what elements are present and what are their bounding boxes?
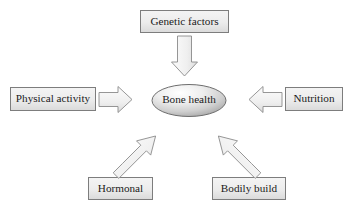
node-hormonal[interactable]: Hormonal [89,178,153,200]
diagram-canvas: Genetic factors Physical activity Nutrit… [0,0,350,210]
node-genetic-factors[interactable]: Genetic factors [141,11,229,33]
nutrition-label: Nutrition [293,92,334,104]
genetic-factors-label: Genetic factors [150,15,218,27]
bodily-build-label: Bodily build [221,182,278,194]
arrow-nutrition-to-bone-health [249,87,282,113]
arrow-physical-activity-to-bone-health [99,87,132,113]
node-physical-activity[interactable]: Physical activity [11,88,96,111]
physical-activity-label: Physical activity [16,92,91,104]
bone-health-label: Bone health [162,93,216,105]
node-nutrition[interactable]: Nutrition [286,88,343,111]
arrow-bodily-build-to-bone-health [218,136,260,178]
arrow-hormonal-to-bone-health [113,136,155,178]
arrow-genetic-factors-to-bone-health [172,36,198,76]
hormonal-label: Hormonal [98,182,143,194]
node-bodily-build[interactable]: Bodily build [213,178,286,200]
node-bone-health[interactable]: Bone health [152,85,226,117]
bone-health-diagram: Genetic factors Physical activity Nutrit… [0,0,350,210]
